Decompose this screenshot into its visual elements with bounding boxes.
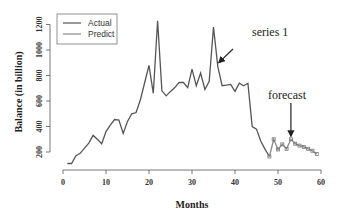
x-tick-label: 40	[231, 178, 239, 187]
y-axis-title: Balance (in billion)	[13, 51, 25, 132]
arrow-series-1	[219, 49, 233, 63]
x-tick-label: 30	[188, 178, 196, 187]
x-axis-title: Months	[176, 199, 209, 210]
legend: Actual Predict	[57, 14, 117, 44]
line-chart: 010203040506020040060080010001200 series…	[0, 0, 339, 224]
x-tick-label: 60	[317, 178, 325, 187]
x-tick-label: 0	[61, 178, 65, 187]
annotation-forecast: forecast	[268, 88, 307, 102]
y-tick-label: 200	[35, 146, 44, 158]
y-tick-label: 1000	[35, 42, 44, 58]
annotation-series-1: series 1	[252, 25, 288, 39]
y-tick-label: 400	[35, 121, 44, 133]
y-tick-label: 600	[35, 95, 44, 107]
y-tick-label: 1200	[35, 17, 44, 33]
x-tick-label: 50	[274, 178, 282, 187]
annotations: series 1forecast	[219, 25, 307, 136]
x-tick-label: 20	[145, 178, 153, 187]
y-tick-label: 800	[35, 70, 44, 82]
x-tick-label: 10	[102, 178, 110, 187]
legend-label-predict: Predict	[88, 29, 115, 39]
legend-label-actual: Actual	[88, 18, 112, 28]
